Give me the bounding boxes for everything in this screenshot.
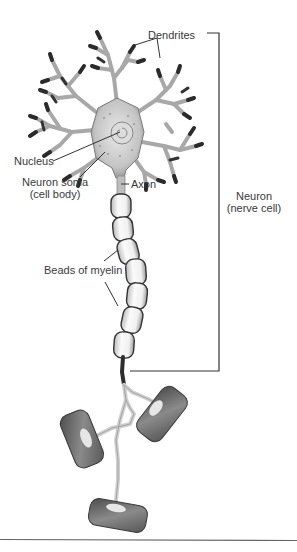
axon-label: Axon — [131, 178, 156, 190]
nucleus-label: Nucleus — [14, 155, 54, 167]
neuron-label-line1: Neuron — [222, 190, 286, 202]
myelin-beads — [111, 194, 148, 359]
dendrites-leader — [132, 38, 160, 58]
nucleus — [111, 122, 133, 144]
myelin-leader-upper — [104, 250, 118, 261]
soma-label-line1: Neuron soma — [22, 176, 88, 188]
dendrites-label: Dendrites — [148, 29, 195, 41]
neuron-label-line2: (nerve cell) — [222, 202, 286, 214]
myelin-leader-lower — [105, 282, 118, 306]
soma-leader — [80, 152, 105, 177]
bottom-rule — [0, 540, 297, 541]
soma-label: Neuron soma (cell body) — [22, 176, 88, 200]
neuron-diagram: Dendrites Nucleus Neuron soma (cell body… — [0, 0, 297, 552]
neuron-label: Neuron (nerve cell) — [222, 190, 286, 214]
myelin-label: Beads of myelin — [44, 264, 122, 276]
axon — [117, 176, 125, 196]
soma-label-line2: (cell body) — [22, 188, 88, 200]
neuron-bracket — [130, 33, 219, 371]
neuron-illustration — [0, 0, 297, 552]
